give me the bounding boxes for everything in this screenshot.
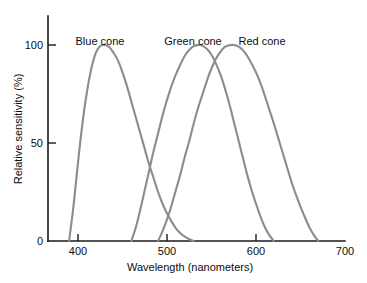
y-tick-label-100: 100	[25, 39, 43, 51]
y-tick-label-50: 50	[31, 137, 43, 149]
y-tick-label-0: 0	[37, 235, 43, 247]
chart-svg: 100 50 0 400 500 600 700 Wavelength (nan…	[0, 0, 367, 283]
cone-sensitivity-chart: 100 50 0 400 500 600 700 Wavelength (nan…	[0, 0, 367, 283]
curve-label-blue-cone: Blue cone	[76, 35, 125, 47]
x-tick-label-600: 600	[247, 245, 265, 257]
curve-label-red-cone: Red cone	[238, 35, 285, 47]
y-axis-title: Relative sensitivity (%)	[12, 74, 24, 185]
x-axis-title: Wavelength (nanometers)	[127, 261, 253, 273]
curve-green-cone	[131, 45, 273, 241]
x-tick-label-400: 400	[69, 245, 87, 257]
curve-label-green-cone: Green cone	[164, 35, 221, 47]
x-tick-label-500: 500	[158, 245, 176, 257]
x-tick-label-700: 700	[336, 245, 354, 257]
